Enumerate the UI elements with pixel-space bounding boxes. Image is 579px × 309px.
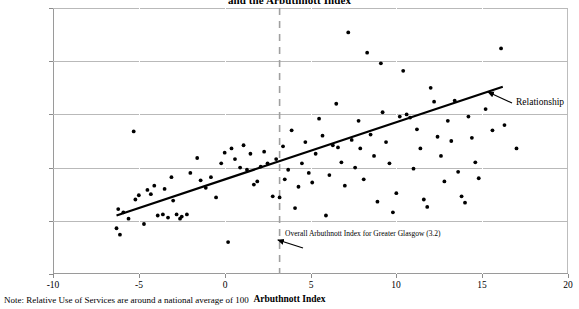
scatter-point — [439, 154, 443, 158]
y-tick-mark — [49, 61, 53, 62]
scatter-point — [283, 177, 287, 181]
scatter-point — [453, 99, 457, 103]
scatter-point — [274, 157, 278, 161]
scatter-point — [185, 213, 189, 217]
scatter-point — [307, 171, 311, 175]
scatter-point — [331, 143, 335, 147]
scatter-point — [286, 168, 290, 172]
scatter-point — [443, 180, 447, 184]
scatter-point — [446, 119, 450, 123]
x-tick-mark — [311, 274, 312, 278]
scatter-point — [499, 47, 503, 51]
scatter-point — [310, 181, 314, 185]
scatter-point — [369, 133, 373, 137]
scatter-point — [473, 160, 477, 164]
scatter-point — [401, 69, 405, 73]
chart-figure: and the Arbuthnott Index 050100150200250… — [0, 0, 579, 309]
scatter-point — [467, 115, 471, 119]
scatter-point — [503, 123, 507, 127]
scatter-point — [219, 161, 223, 165]
scatter-point — [195, 156, 199, 160]
y-tick-mark — [49, 8, 53, 9]
scatter-point — [204, 186, 208, 190]
scatter-point — [166, 216, 170, 220]
scatter-point — [161, 213, 165, 217]
x-tick-mark — [139, 274, 140, 278]
scatter-point — [132, 130, 136, 134]
scatter-point — [336, 145, 340, 149]
scatter-point — [357, 119, 361, 123]
scatter-point — [376, 200, 380, 204]
scatter-point — [214, 195, 218, 199]
x-tick-label: 5 — [309, 281, 314, 291]
scatter-point — [358, 147, 362, 151]
scatter-point — [278, 195, 282, 199]
scatter-point — [137, 193, 141, 197]
scatter-point — [180, 215, 184, 219]
x-tick-mark — [225, 274, 226, 278]
scatter-point — [463, 201, 467, 205]
scatter-point — [317, 117, 321, 121]
y-tick-mark — [49, 114, 53, 115]
scatter-point — [340, 160, 344, 164]
scatter-point — [418, 147, 422, 151]
scatter-point — [233, 157, 237, 161]
scatter-point — [242, 143, 246, 147]
annotation-arbuthnott-index-glasgow: Overall Arbuthnott Index for Greater Gla… — [285, 229, 441, 238]
scatter-point — [262, 150, 266, 154]
scatter-point — [226, 240, 230, 244]
scatter-point — [293, 206, 297, 210]
scatter-point — [432, 100, 436, 104]
scatter-point — [334, 102, 338, 106]
scatter-point — [412, 167, 416, 171]
scatter-point — [321, 134, 325, 138]
scatter-point — [314, 152, 318, 156]
scatter-point — [388, 161, 392, 165]
scatter-point — [484, 107, 488, 111]
scatter-point — [379, 61, 383, 65]
scatter-point — [343, 184, 347, 188]
scatter-point — [188, 171, 192, 175]
scatter-point — [405, 113, 409, 117]
scatter-point — [230, 147, 234, 151]
scatter-point — [238, 166, 242, 170]
chart-title: and the Arbuthnott Index — [0, 0, 579, 6]
scatter-point — [116, 207, 120, 211]
scatter-point — [300, 161, 304, 165]
chart-note: Note: Relative Use of Services are aroun… — [4, 295, 249, 305]
scatter-point — [209, 175, 213, 179]
scatter-point — [303, 140, 307, 144]
scatter-point — [477, 176, 481, 180]
scatter-point — [324, 214, 328, 218]
x-tick-mark — [53, 274, 54, 278]
scatter-point — [249, 152, 253, 156]
scatter-point — [199, 178, 203, 182]
scatter-point — [415, 127, 419, 131]
scatter-point — [121, 210, 125, 214]
scatter-point — [491, 128, 495, 132]
trendline — [117, 87, 503, 216]
trendline-segment — [117, 87, 503, 216]
scatter-point — [384, 140, 388, 144]
scatter-point — [142, 222, 146, 226]
scatter-point — [149, 192, 153, 196]
scatter-point — [175, 213, 179, 217]
x-tick-label: -10 — [47, 281, 60, 291]
scatter-point — [372, 154, 376, 158]
scatter-point — [259, 165, 263, 169]
scatter-point — [436, 135, 440, 139]
scatter-point — [429, 86, 433, 90]
scatter-point — [156, 214, 160, 218]
scatter-point — [134, 198, 138, 202]
x-tick-mark — [396, 274, 397, 278]
scatter-point — [223, 151, 227, 155]
scatter-point — [245, 168, 249, 172]
x-tick-label: -5 — [135, 281, 143, 291]
x-tick-label: 0 — [223, 281, 228, 291]
scatter-point — [271, 194, 275, 198]
scatter-point — [408, 116, 412, 120]
scatter-point — [470, 136, 474, 140]
scatter-point — [152, 184, 156, 188]
x-tick-label: 20 — [563, 281, 573, 291]
scatter-point — [115, 226, 119, 230]
